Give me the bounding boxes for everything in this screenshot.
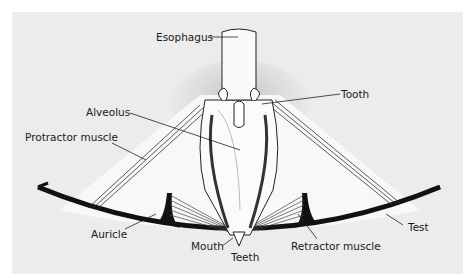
label-alveolus: Alveolus bbox=[86, 107, 130, 118]
label-teeth: Teeth bbox=[231, 252, 259, 263]
label-retractor-muscle: Retractor muscle bbox=[291, 241, 381, 252]
label-protractor-muscle: Protractor muscle bbox=[25, 132, 118, 143]
esophagus-tube bbox=[222, 29, 256, 100]
label-test: Test bbox=[408, 222, 429, 233]
tooth-center bbox=[234, 101, 244, 128]
test-edge-left bbox=[38, 183, 48, 187]
leader-test bbox=[386, 214, 403, 225]
label-esophagus: Esophagus bbox=[156, 32, 213, 43]
label-mouth: Mouth bbox=[191, 241, 224, 252]
label-tooth: Tooth bbox=[341, 89, 369, 100]
label-auricle: Auricle bbox=[91, 229, 127, 240]
teeth-tip bbox=[233, 232, 245, 246]
